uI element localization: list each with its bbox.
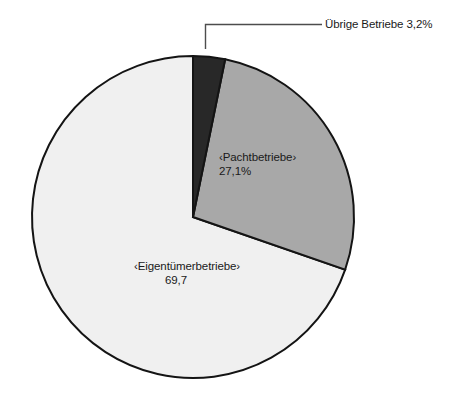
pie-label-eigentuemerbetriebe-value: 69,7 <box>134 273 240 287</box>
pie-label-eigentuemerbetriebe: ‹Eigentümerbetriebe› 69,7 <box>134 259 240 287</box>
pie-label-pachtbetriebe: ‹Pachtbetriebe› 27,1% <box>219 150 296 178</box>
pie-chart-canvas <box>0 0 450 409</box>
pie-label-pachtbetriebe-name: ‹Pachtbetriebe› <box>219 150 296 164</box>
uebrige-betriebe-callout-line <box>206 25 323 50</box>
pie-label-uebrige-betriebe-text: Übrige Betriebe 3,2% <box>325 17 432 31</box>
pie-label-eigentuemerbetriebe-name: ‹Eigentümerbetriebe› <box>134 259 240 273</box>
pie-label-pachtbetriebe-value: 27,1% <box>219 164 296 178</box>
pie-label-uebrige-betriebe: Übrige Betriebe 3,2% <box>325 17 432 31</box>
pie-chart: Übrige Betriebe 3,2% ‹Pachtbetriebe› 27,… <box>0 0 450 409</box>
